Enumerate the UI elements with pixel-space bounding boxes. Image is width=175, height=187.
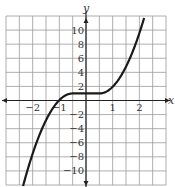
y-tick-label: 2	[78, 81, 84, 92]
y-axis-arrow-up-icon	[84, 18, 89, 23]
x-tick-label: −2	[25, 102, 40, 113]
x-tick-label: 2	[136, 102, 142, 113]
y-tick-label: 8	[78, 39, 84, 50]
function-graph: −2−112108642−2−4−6−8−10 x y	[0, 0, 175, 187]
y-tick-label: −8	[69, 151, 84, 162]
x-axis-label: x	[168, 94, 175, 107]
y-tick-label: 6	[78, 53, 84, 64]
y-tick-label: −6	[69, 137, 84, 148]
y-tick-label: 10	[71, 25, 84, 36]
axes	[2, 12, 170, 187]
y-tick-label: −10	[63, 165, 84, 176]
y-tick-label: −2	[69, 109, 84, 120]
x-axis-arrow-left-icon	[2, 98, 7, 103]
x-tick-label: 1	[109, 102, 115, 113]
y-tick-label: −4	[69, 123, 84, 134]
y-tick-label: 4	[78, 67, 84, 78]
y-axis-label: y	[82, 2, 90, 15]
